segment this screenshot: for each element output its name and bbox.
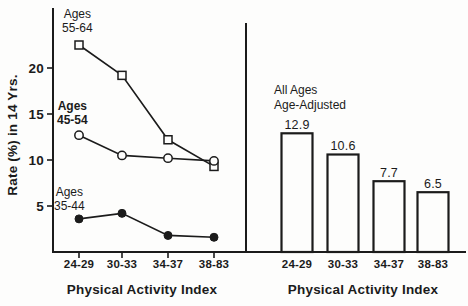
bar-24-29 [282,133,313,252]
y-tick-label: 20 [29,61,44,76]
series-label-ages-45-54: Ages 45-54 [57,99,88,127]
x-category-label-right: 38-83 [418,258,448,270]
marker-open-circle [164,154,172,162]
x-category-label-left: 24-29 [64,258,94,270]
marker-filled-circle [75,215,83,223]
chart-canvas: 510152024-2930-3334-3738-8312.924-2910.6… [0,0,468,306]
series-label-ages-35-44: Ages 35-44 [54,185,85,213]
marker-open-circle [210,157,218,165]
y-tick-label: 5 [36,199,44,214]
x-category-label-left: 30-33 [107,258,137,270]
bar-34-37 [374,181,405,252]
x-category-label-left: 34-37 [153,258,183,270]
line-series-ages-55-64 [79,45,214,166]
bar-value-label: 6.5 [424,177,442,191]
marker-open-square [75,41,83,49]
line-series-ages-35-44 [79,213,214,237]
marker-open-circle [75,131,83,139]
series-label-ages-55-64: Ages 55-64 [62,7,93,35]
x-axis-title-left: Physical Activity Index [67,282,217,297]
bar-value-label: 12.9 [284,118,309,132]
x-category-label-right: 24-29 [282,258,312,270]
y-tick-label: 15 [29,107,45,122]
y-axis-title: Rate (%) in 14 Yrs. [5,74,20,195]
x-axis-title-right: Physical Activity Index [288,282,438,297]
y-tick-label: 10 [29,153,44,168]
x-category-label-right: 34-37 [374,258,404,270]
marker-filled-circle [118,209,126,217]
marker-open-circle [118,151,126,159]
bar-38-83 [418,192,449,252]
all-ages-age-adjusted-label: All Ages Age-Adjusted [274,83,346,112]
marker-filled-circle [164,231,172,239]
marker-open-square [118,71,126,79]
line-series-ages-45-54 [79,135,214,161]
bar-value-label: 7.7 [380,166,398,180]
bar-value-label: 10.6 [330,139,355,153]
marker-open-square [164,136,172,144]
x-category-label-left: 38-83 [199,258,229,270]
physical-activity-dual-panel-chart: 510152024-2930-3334-3738-8312.924-2910.6… [0,0,468,306]
bar-30-33 [328,155,359,253]
x-category-label-right: 30-33 [328,258,358,270]
marker-filled-circle [210,233,218,241]
